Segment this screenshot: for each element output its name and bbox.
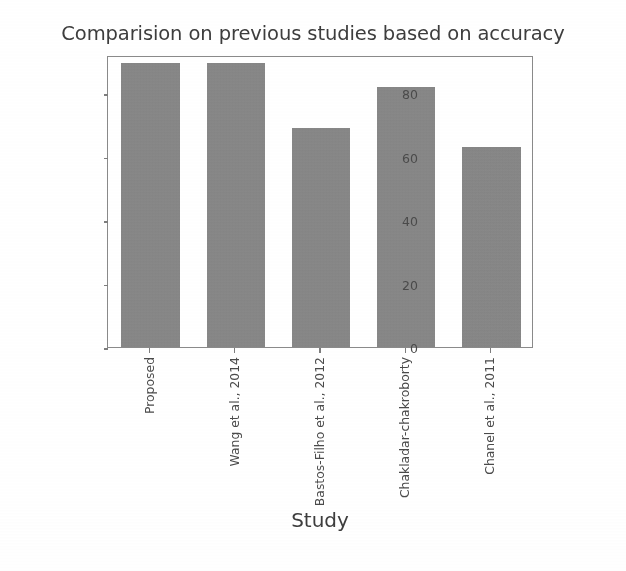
x-axis-tick-label-text: Wang et al., 2014	[229, 357, 241, 467]
y-axis-tick-label: 0	[358, 343, 418, 355]
plot-area	[108, 57, 532, 347]
x-axis-tick-mark	[490, 348, 491, 353]
y-axis-tick-label: 20	[358, 280, 418, 292]
y-axis-tick-label: 60	[358, 153, 418, 165]
bar	[121, 63, 179, 347]
page-title: Comparision on previous studies based on…	[0, 22, 626, 46]
y-axis-tick-mark	[104, 348, 109, 349]
y-axis-tick-mark	[104, 285, 109, 286]
x-axis-title: Study	[107, 509, 533, 531]
x-axis-tick-mark	[405, 348, 406, 353]
x-axis-tick-label-text: Chakladar-chakroborty	[399, 357, 411, 498]
bar	[292, 128, 350, 347]
y-axis-tick-mark	[104, 158, 109, 159]
x-axis-tick-mark	[149, 348, 150, 353]
x-axis-tick-label-text: Chanel et al., 2011	[484, 357, 496, 475]
x-axis-tick-mark	[234, 348, 235, 353]
bar	[462, 147, 520, 347]
y-axis-tick-mark	[104, 221, 109, 222]
y-axis-tick-label: 80	[358, 89, 418, 101]
x-axis-tick-mark	[319, 348, 320, 353]
bar-chart-figure: Comparision on previous studies based on…	[0, 0, 626, 571]
y-axis-tick-label: 40	[358, 216, 418, 228]
x-axis-tick-label-text: Proposed	[144, 357, 156, 414]
y-axis-tick-mark	[104, 94, 109, 95]
x-axis-tick-label-text: Bastos-Filho et al., 2012	[314, 357, 326, 506]
bar	[207, 63, 265, 347]
plot-frame: 020406080	[107, 56, 533, 348]
